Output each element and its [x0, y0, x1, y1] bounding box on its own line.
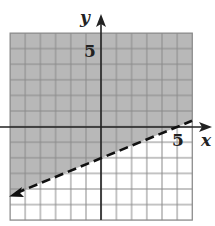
x-axis-label: x — [200, 130, 212, 150]
y-axis-label: y — [79, 7, 91, 27]
x-tick-label: 5 — [172, 130, 184, 150]
y-tick-label: 5 — [84, 41, 96, 61]
inequality-graph: y x 5 5 — [0, 0, 215, 226]
